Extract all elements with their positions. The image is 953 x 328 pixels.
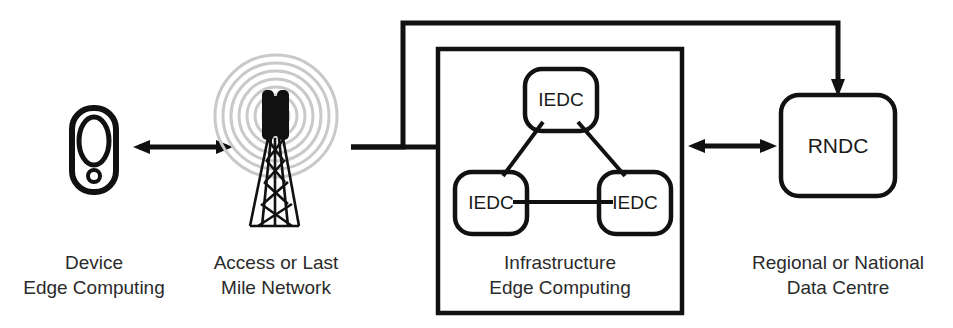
iedc-node-top-label: IEDC [538,89,583,110]
device-home-button-icon [88,170,100,182]
datacentre-label-line2: Data Centre [787,277,889,298]
device-screen-icon [79,117,109,165]
rndc-node[interactable]: RNDC [781,95,895,196]
mobile-device-icon [72,108,116,192]
access-label-line1: Access or Last [214,252,339,273]
arrowhead-right-icon [760,139,777,153]
arrowhead-left-icon [688,139,705,153]
access-label-line2: Mile Network [221,277,331,298]
rndc-node-label: RNDC [808,134,869,157]
bypass-polyline [351,23,838,147]
device-label-line1: Device [65,252,123,273]
caption-datacentre: Regional or National Data Centre [752,252,924,298]
iedc-node-bottom-right-label: IEDC [612,192,657,213]
tower-mast-icon [250,138,299,226]
datacentre-label-line1: Regional or National [752,252,924,273]
diagram-canvas: IEDC IEDC IEDC Infrastructure Edge Compu… [0,0,953,328]
infrastructure-label-line2: Edge Computing [489,277,631,298]
caption-device: Device Edge Computing [23,252,165,298]
iedc-node-bottom-left-label: IEDC [468,192,513,213]
cell-tower-icon [215,55,337,226]
tower-antenna-icon [262,90,289,140]
infrastructure-edge-box: IEDC IEDC IEDC Infrastructure Edge Compu… [438,49,682,313]
device-label-line2: Edge Computing [23,277,165,298]
connector-device-to-access [133,140,233,154]
infrastructure-label-line1: Infrastructure [504,252,616,273]
connector-infrastructure-to-datacentre [688,139,777,153]
iedc-node-top[interactable]: IEDC [525,69,597,131]
edge-computing-diagram: IEDC IEDC IEDC Infrastructure Edge Compu… [0,0,953,328]
caption-access: Access or Last Mile Network [214,252,339,298]
arrowhead-left-icon [133,140,150,154]
iedc-mesh-links [503,122,625,202]
